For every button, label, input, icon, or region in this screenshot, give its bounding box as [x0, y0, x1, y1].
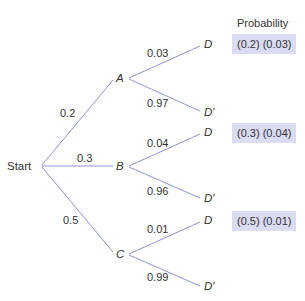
prob-b-dprime: 0.96 — [147, 185, 168, 198]
joint-prob-a-d: (0.2) (0.03) — [232, 34, 296, 54]
node-c-dprime: D′ — [204, 280, 214, 293]
node-b-d: D — [204, 126, 212, 139]
node-b-dprime: D′ — [204, 192, 214, 205]
prob-start-a: 0.2 — [60, 107, 75, 120]
node-c: C — [116, 248, 124, 261]
prob-start-c: 0.5 — [63, 214, 78, 227]
branch-start-c — [42, 167, 113, 252]
probability-header: Probability — [237, 17, 288, 29]
joint-prob-b-d: (0.3) (0.04) — [232, 123, 296, 143]
prob-c-d: 0.01 — [147, 223, 168, 236]
start-node: Start — [7, 160, 31, 173]
joint-prob-c-d: (0.5) (0.01) — [232, 211, 296, 231]
node-a: A — [116, 72, 124, 85]
node-c-d: D — [204, 214, 212, 227]
node-a-d: D — [204, 38, 212, 51]
node-b: B — [116, 160, 124, 173]
prob-start-b: 0.3 — [77, 152, 92, 165]
prob-b-d: 0.04 — [147, 137, 168, 150]
prob-c-dprime: 0.99 — [147, 271, 168, 284]
prob-a-dprime: 0.97 — [147, 97, 168, 110]
prob-a-d: 0.03 — [147, 47, 168, 60]
node-a-dprime: D′ — [204, 106, 214, 119]
